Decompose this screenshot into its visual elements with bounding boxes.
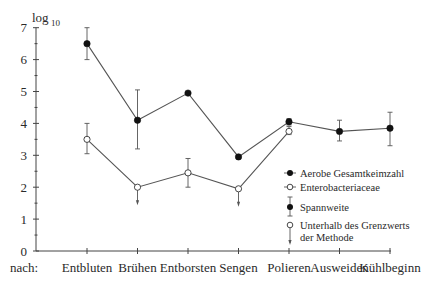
x-tick-label: Polieren (267, 260, 311, 275)
x-axis: nach:EntblutenBrühenEntborstenSengenPoli… (10, 248, 421, 275)
y-tick-label: 5 (21, 84, 28, 99)
x-axis-prefix-label: nach: (10, 260, 38, 275)
legend-item-aerobe: Aerobe Gesamtkeimzahl (284, 168, 404, 179)
svg-text:10: 10 (51, 18, 61, 28)
data-point-open (134, 184, 140, 190)
x-tick-label: Entbluten (62, 260, 113, 275)
y-tick-label: 2 (21, 180, 28, 195)
data-point-open (286, 128, 292, 134)
data-point-filled (235, 154, 241, 160)
data-point-filled (387, 125, 393, 131)
legend-item-enterobacteriaceae: Enterobacteriaceae (284, 182, 380, 193)
data-point-filled (286, 119, 292, 125)
chart-container: log 10 01234567 nach:EntblutenBrühenEntb… (0, 0, 445, 287)
y-tick-label: 6 (21, 52, 28, 67)
svg-text:log: log (32, 10, 49, 25)
x-tick-label: Entborsten (160, 260, 217, 275)
data-point-filled (185, 90, 191, 96)
svg-text:Enterobacteriaceae: Enterobacteriaceae (300, 182, 380, 193)
x-tick-label: Sengen (219, 260, 258, 275)
y-axis-unit-label: log 10 (32, 10, 61, 28)
data-series (84, 28, 393, 207)
data-point-filled (134, 117, 140, 123)
data-point-open (235, 186, 241, 192)
y-tick-label: 1 (21, 212, 28, 227)
x-tick-label: Kühlbeginn (359, 260, 421, 275)
data-point-filled (84, 40, 90, 46)
legend-item-below-limit: Unterhalb des Grenzwertsder Methode (287, 220, 409, 245)
series-enterobacteriaceae (84, 123, 292, 206)
y-tick-label: 7 (21, 20, 28, 35)
y-tick-label: 4 (21, 116, 28, 131)
y-axis: 01234567 (21, 20, 40, 258)
series-aerobe-gesamtkeimzahl (84, 28, 393, 160)
legend: Aerobe GesamtkeimzahlEnterobacteriaceaeS… (284, 168, 410, 245)
svg-text:Spannweite: Spannweite (300, 202, 349, 213)
svg-text:Aerobe Gesamtkeimzahl: Aerobe Gesamtkeimzahl (300, 168, 404, 179)
svg-text:der Methode: der Methode (300, 232, 354, 243)
data-point-filled (336, 128, 342, 134)
x-tick-label: Brühen (118, 260, 157, 275)
y-tick-label: 0 (21, 244, 28, 259)
data-point-open (185, 170, 191, 176)
svg-text:Unterhalb des Grenzwerts: Unterhalb des Grenzwerts (300, 220, 410, 231)
line-chart: log 10 01234567 nach:EntblutenBrühenEntb… (0, 0, 445, 287)
data-point-open (84, 136, 90, 142)
legend-item-spannweite: Spannweite (287, 197, 349, 216)
y-tick-label: 3 (21, 148, 28, 163)
